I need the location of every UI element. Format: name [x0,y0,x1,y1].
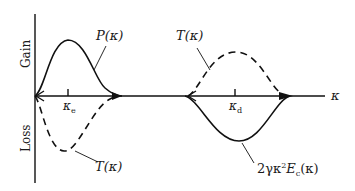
dissipation-curve [185,96,290,141]
p-kappa-curve [35,40,122,96]
p-kappa-label: P(κ) [95,28,123,43]
t-kappa-upper-label: T(κ) [176,28,203,43]
tick-label-ke: κe [62,99,76,115]
x-axis-label: κ [330,88,340,103]
energy-transfer-diagram: Gain Loss κ κe κd P(κ) T(κ) T(κ) 2γκ2Ec(… [0,0,355,191]
tick-label-kd: κd [228,99,242,115]
dissipation-pointer [242,143,254,163]
dissipation-label: 2γκ2Ec(κ) [257,161,319,178]
loss-label: Loss [19,124,33,152]
t-kappa-gain-curve [188,52,285,96]
t-kappa-upper-pointer [197,48,210,70]
t-kappa-lower-pointer [75,151,98,162]
p-kappa-pointer [94,46,106,70]
p-kappa-arrowhead [112,92,122,100]
gain-label: Gain [19,39,33,68]
t-kappa-lower-label: T(κ) [95,159,122,174]
t-kappa-loss-curve [35,96,118,151]
